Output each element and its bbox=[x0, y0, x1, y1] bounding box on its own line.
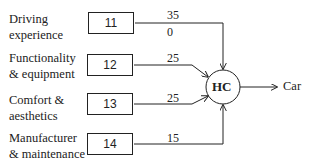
label-line: & equipment bbox=[9, 66, 76, 82]
input-box-13: 13 bbox=[87, 93, 133, 115]
edge-11 bbox=[135, 23, 223, 69]
label-line: & maintenance bbox=[9, 146, 85, 162]
input-label-functionality: Functionality & equipment bbox=[9, 50, 76, 82]
input-box-14: 14 bbox=[87, 133, 133, 155]
input-label-comfort: Comfort & aesthetics bbox=[9, 92, 64, 124]
input-label-manufacturer: Manufacturer & maintenance bbox=[9, 130, 85, 162]
label-line: experience bbox=[9, 27, 63, 43]
input-label-driving-experience: Driving experience bbox=[9, 11, 63, 43]
weight-12: 25 bbox=[167, 52, 179, 64]
weight-11-extra: 0 bbox=[167, 26, 173, 38]
label-line: aesthetics bbox=[9, 108, 64, 124]
hc-node-label: HC bbox=[212, 79, 232, 95]
weight-13: 25 bbox=[167, 92, 179, 104]
input-box-12: 12 bbox=[87, 54, 133, 76]
label-line: Comfort & bbox=[9, 92, 64, 108]
weight-11: 35 bbox=[167, 9, 179, 21]
input-box-11: 11 bbox=[88, 12, 134, 34]
label-line: Functionality bbox=[9, 50, 76, 66]
label-line: Manufacturer bbox=[9, 130, 85, 146]
weight-14: 15 bbox=[167, 132, 179, 144]
output-label: Car bbox=[283, 79, 301, 94]
label-line: Driving bbox=[9, 11, 63, 27]
edge-12 bbox=[134, 65, 208, 77]
